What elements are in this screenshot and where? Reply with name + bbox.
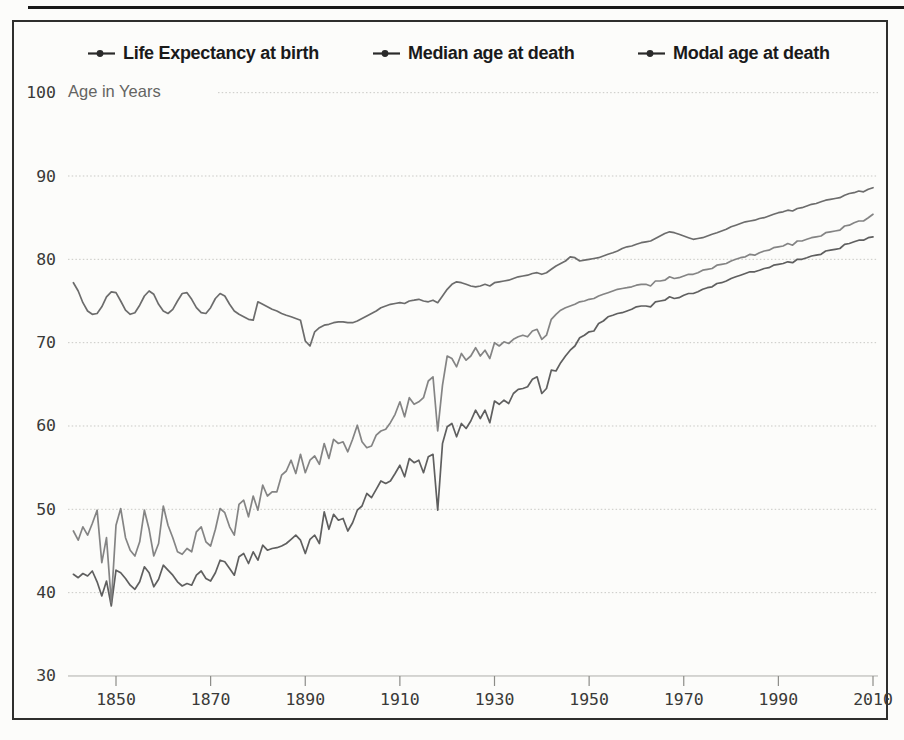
x-tick-label: 1850 xyxy=(96,690,136,709)
x-tick-label: 1930 xyxy=(475,690,515,709)
x-tick-label: 1890 xyxy=(285,690,325,709)
x-tick-label: 1990 xyxy=(759,690,799,709)
x-tick-label: 2010 xyxy=(853,690,893,709)
series-line-0 xyxy=(73,237,873,606)
y-tick-label: 70 xyxy=(36,333,56,352)
x-tick-label: 1870 xyxy=(191,690,231,709)
series-line-2 xyxy=(73,188,873,346)
y-tick-label: 40 xyxy=(36,583,56,602)
y-tick-label: 90 xyxy=(36,167,56,186)
y-tick-label: 80 xyxy=(36,250,56,269)
y-tick-label: 100 xyxy=(26,83,56,102)
x-tick-label: 1970 xyxy=(664,690,704,709)
y-tick-label: 50 xyxy=(36,500,56,519)
y-tick-label: 60 xyxy=(36,416,56,435)
x-tick-label: 1910 xyxy=(380,690,420,709)
figure: Life Expectancy at birth Median age at d… xyxy=(0,0,904,740)
x-tick-label: 1950 xyxy=(569,690,609,709)
plot-area: 1009080706050403018501870189019101930195… xyxy=(0,0,904,740)
y-tick-label: 30 xyxy=(36,666,56,685)
